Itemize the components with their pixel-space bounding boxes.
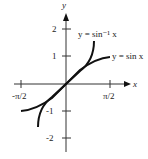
- y-tick-label-neg1: -1: [46, 107, 54, 116]
- graph: [0, 0, 148, 159]
- sin-label: y = sin x: [112, 52, 143, 61]
- y-tick-label-1: 1: [52, 52, 57, 61]
- x-arrow-icon: [124, 81, 131, 87]
- y-axis-label: y: [62, 1, 66, 10]
- x-tick-label-pos: π/2: [103, 92, 115, 101]
- arcsin-label: y = sin⁻¹ x: [78, 30, 117, 39]
- y-tick-label-2: 2: [52, 25, 57, 34]
- x-axis-label: x: [133, 80, 137, 89]
- y-tick-label-neg2: -2: [46, 134, 54, 143]
- y-arrow-icon: [63, 13, 69, 21]
- x-tick-label-neg: -π/2: [12, 92, 27, 101]
